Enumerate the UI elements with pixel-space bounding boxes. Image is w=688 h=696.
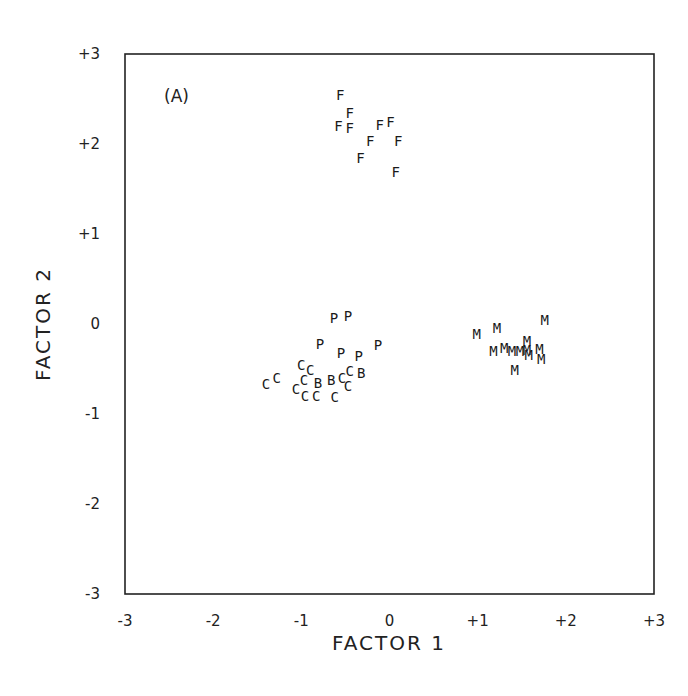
data-point-p: P <box>316 336 324 352</box>
data-point-m: M <box>540 312 548 328</box>
data-points: FFFFFFFFFFPPPPPPCCCCCCCCCCCCBBBMMMMMMMMM… <box>262 87 549 405</box>
x-tick-label: -3 <box>118 612 133 630</box>
data-point-m: M <box>525 347 533 363</box>
data-point-f: F <box>336 87 344 103</box>
data-point-b: B <box>314 375 322 391</box>
x-tick-label: 0 <box>385 612 395 630</box>
data-point-m: M <box>489 343 497 359</box>
data-point-m: M <box>537 351 545 367</box>
y-tick-label: +2 <box>78 135 100 153</box>
data-point-f: F <box>366 133 374 149</box>
x-tick-label: -1 <box>294 612 309 630</box>
y-axis-label: FACTOR 2 <box>31 267 55 381</box>
data-point-m: M <box>473 326 481 342</box>
data-point-f: F <box>356 150 364 166</box>
y-tick-label: +3 <box>78 45 100 63</box>
data-point-c: C <box>346 363 354 379</box>
y-tick-label: 0 <box>90 315 100 333</box>
x-tick-label: -2 <box>206 612 221 630</box>
data-point-p: P <box>337 345 345 361</box>
data-point-c: C <box>331 389 339 405</box>
data-point-p: P <box>374 337 382 353</box>
data-point-c: C <box>272 370 280 386</box>
data-point-m: M <box>510 362 518 378</box>
data-point-m: M <box>493 320 501 336</box>
x-tick-label: +2 <box>555 612 577 630</box>
y-tick-label: +1 <box>78 225 100 243</box>
scatter-plot: -3-2-10+1+2+3 +3+2+10-1-2-3 FACTOR 1 FAC… <box>0 0 688 696</box>
x-axis-ticks: -3-2-10+1+2+3 <box>118 612 666 630</box>
x-tick-label: +3 <box>643 612 665 630</box>
data-point-f: F <box>386 114 394 130</box>
y-tick-label: -3 <box>85 585 100 603</box>
data-point-f: F <box>391 164 399 180</box>
data-point-c: C <box>262 376 270 392</box>
data-point-c: C <box>344 378 352 394</box>
data-point-f: F <box>394 133 402 149</box>
data-point-p: P <box>330 310 338 326</box>
data-point-b: B <box>357 365 365 381</box>
data-point-f: F <box>376 117 384 133</box>
y-tick-label: -1 <box>85 405 100 423</box>
data-point-b: B <box>327 372 335 388</box>
panel-label: (A) <box>164 86 189 106</box>
data-point-p: P <box>344 308 352 324</box>
data-point-c: C <box>297 357 305 373</box>
plot-frame <box>125 54 654 594</box>
data-point-p: P <box>354 348 362 364</box>
data-point-c: C <box>300 372 308 388</box>
data-point-f: F <box>346 120 354 136</box>
data-point-c: C <box>301 388 309 404</box>
y-tick-label: -2 <box>85 495 100 513</box>
x-tick-label: +1 <box>467 612 489 630</box>
x-axis-label: FACTOR 1 <box>332 631 446 655</box>
data-point-f: F <box>334 118 342 134</box>
data-point-c: C <box>292 381 300 397</box>
y-axis-ticks: +3+2+10-1-2-3 <box>78 45 100 603</box>
